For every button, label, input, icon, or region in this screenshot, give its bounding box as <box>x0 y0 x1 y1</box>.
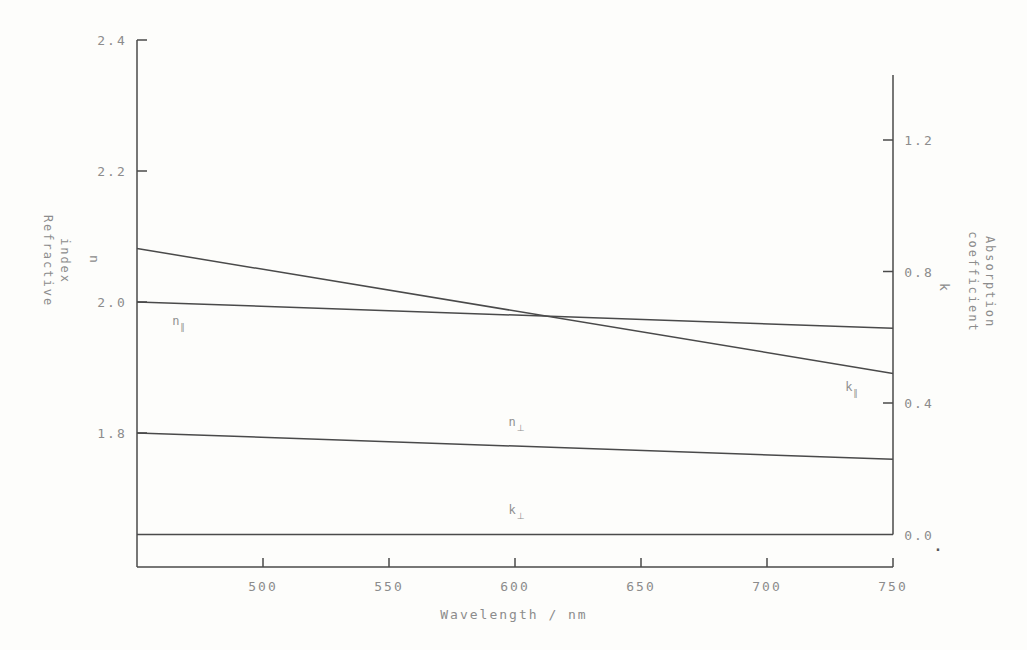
x-axis-title: Wavelength / nm <box>440 607 587 622</box>
series-label-k-parallel: k∥ <box>845 380 857 396</box>
series-label-main: k <box>845 380 852 394</box>
right-axis-tick-label: 0.8 <box>904 264 933 279</box>
left-axis-symbol: n <box>87 255 102 265</box>
series-line-n-parallel <box>137 302 893 328</box>
right-axis-symbol: k <box>937 283 952 293</box>
left-axis-title-line2: index <box>58 238 72 284</box>
series-label-main: k <box>508 503 515 517</box>
right-axis-title-line1: Absorption <box>983 236 997 328</box>
stray-dot-mark: . <box>934 538 942 554</box>
x-axis-tick-label: 700 <box>752 579 781 594</box>
series-line-n-perpendicular <box>137 433 893 459</box>
left-axis-tick-label: 2.0 <box>97 295 126 310</box>
series-label-n-parallel: n∥ <box>172 314 184 330</box>
right-axis-title-line2: coefficient <box>966 231 980 332</box>
series-line-k-parallel <box>137 249 893 374</box>
x-axis-tick-label: 650 <box>626 579 655 594</box>
series-label-subscript: ∥ <box>853 388 858 398</box>
x-axis-tick-label: 600 <box>500 579 529 594</box>
series-label-main: n <box>508 415 515 429</box>
chart-canvas <box>0 0 1027 650</box>
right-axis-tick-label: 1.2 <box>904 133 933 148</box>
series-label-subscript: ∥ <box>180 322 185 332</box>
left-axis-tick-label: 2.2 <box>97 164 126 179</box>
right-axis-tick-label: 0.4 <box>904 396 933 411</box>
x-axis-tick-label: 550 <box>374 579 403 594</box>
left-axis-tick-label: 1.8 <box>97 426 126 441</box>
left-axis-tick-label: 2.4 <box>97 33 126 48</box>
x-axis-tick-label: 500 <box>248 579 277 594</box>
series-label-k-perpendicular: k⊥ <box>508 503 523 519</box>
series-label-n-perpendicular: n⊥ <box>508 415 523 431</box>
series-label-subscript: ⊥ <box>517 423 525 433</box>
chart-figure: Refractive index n Absorption coefficien… <box>0 0 1027 650</box>
x-axis-tick-label: 750 <box>878 579 907 594</box>
series-label-subscript: ⊥ <box>517 511 525 521</box>
left-axis-title-line1: Refractive <box>41 215 55 307</box>
right-axis-tick-label: 0.0 <box>904 527 933 542</box>
series-label-main: n <box>172 314 179 328</box>
